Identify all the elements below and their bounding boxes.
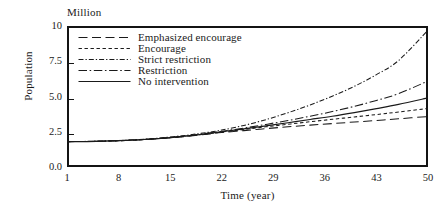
x-tick-label: 15 [150, 172, 190, 183]
series-line [67, 98, 428, 142]
legend-label: No intervention [138, 76, 209, 87]
x-tick-label: 29 [253, 172, 293, 183]
x-axis-tick-labels: 18152229364350 [67, 172, 428, 186]
legend-line-swatch [78, 76, 131, 87]
y-tick-label: 2.5 [36, 127, 62, 137]
chart-legend: Emphasized encourageEncourageStrict rest… [78, 32, 242, 87]
y-tick-label: 10 [36, 21, 62, 31]
x-tick-label: 43 [356, 172, 396, 183]
x-tick-label: 50 [408, 172, 447, 183]
x-axis-title: Time (year) [67, 189, 428, 201]
x-tick-label: 1 [47, 172, 87, 183]
legend-line-swatch [78, 43, 131, 54]
x-tick-label: 8 [99, 172, 139, 183]
legend-line-swatch [78, 54, 131, 65]
legend-line-swatch [78, 32, 131, 43]
y-tick-label: 0.0 [36, 162, 62, 172]
y-axis-tick-labels: 0.02.55.07.510 [32, 26, 62, 167]
legend-item: No intervention [78, 76, 242, 87]
legend-line-swatch [78, 65, 131, 76]
x-tick-label: 36 [305, 172, 345, 183]
x-tick-label: 22 [202, 172, 242, 183]
population-projection-chart: Million Population 0.02.55.07.510 Emphas… [0, 0, 447, 210]
y-axis-unit-caption: Million [67, 6, 101, 18]
series-line [67, 81, 428, 142]
series-line [67, 108, 428, 141]
y-tick-label: 7.5 [36, 56, 62, 66]
y-tick-label: 5.0 [36, 92, 62, 102]
